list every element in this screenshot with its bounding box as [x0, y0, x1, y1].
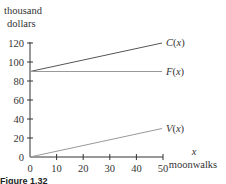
y-tick-labels: 120 100 80 60 40 20 0: [8, 38, 24, 163]
y-axis-label-line1: thousand: [4, 5, 43, 16]
figure-caption: Figure 1.32: [0, 176, 48, 184]
y-axis-label-line2: dollars: [7, 18, 36, 29]
svg-text:0: 0: [27, 163, 32, 174]
svg-text:20: 20: [14, 133, 25, 144]
svg-text:10: 10: [51, 163, 62, 174]
svg-text:20: 20: [78, 163, 89, 174]
series-v-label: V(x): [166, 123, 185, 135]
svg-text:100: 100: [8, 57, 24, 68]
svg-text:40: 40: [14, 114, 25, 125]
series-c-line: [30, 43, 162, 72]
series-f-label: F(x): [165, 66, 185, 78]
x-axis-var-label: x: [191, 146, 197, 157]
series-v-line: [30, 129, 162, 158]
x-axis-unit-label: moonwalks: [169, 159, 217, 170]
svg-text:30: 30: [105, 163, 116, 174]
chart: thousand dollars 120 100 80 60 40 20 0 0…: [0, 0, 226, 184]
x-tick-labels: 0 10 20 30 40 50: [27, 163, 168, 174]
svg-text:50: 50: [158, 163, 169, 174]
svg-text:60: 60: [14, 95, 25, 106]
svg-text:0: 0: [19, 152, 24, 163]
svg-text:80: 80: [14, 76, 25, 87]
svg-text:40: 40: [131, 163, 142, 174]
svg-text:120: 120: [8, 38, 24, 49]
series-c-label: C(x): [166, 37, 185, 49]
